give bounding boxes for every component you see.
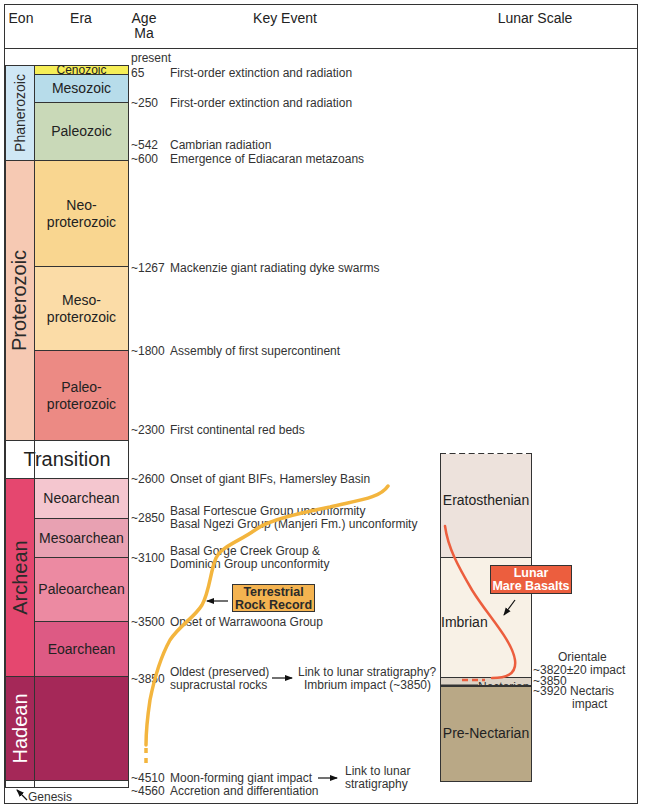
terrestrial-curve [146, 486, 388, 745]
arrow-genesis [17, 790, 27, 800]
mare-basalt-curve [445, 526, 515, 678]
arrow-basalt [504, 600, 515, 615]
curves-layer [0, 0, 645, 810]
